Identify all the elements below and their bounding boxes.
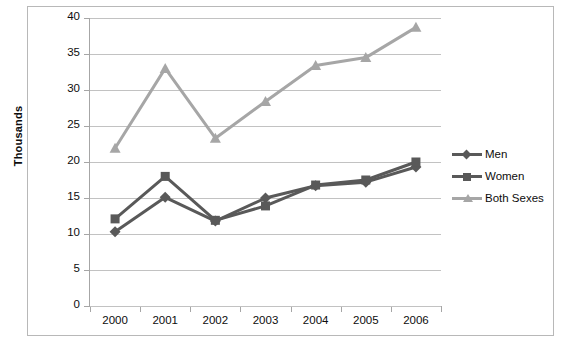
x-tick [90,307,91,312]
legend-key-square-icon [452,170,482,182]
x-tick-label: 2005 [341,314,391,326]
data-point-marker [411,158,420,167]
x-tick-label: 2004 [291,314,341,326]
y-tick [84,234,89,235]
gridline [90,306,441,307]
x-tick [391,307,392,312]
y-tick-label: 35 [48,46,80,58]
y-tick [84,198,89,199]
data-point-marker [160,63,171,73]
legend-key-triangle-icon [452,192,482,204]
x-tick-label: 2002 [190,314,240,326]
series-lines [90,18,441,306]
x-tick [140,307,141,312]
x-tick [291,307,292,312]
data-point-marker [410,22,421,32]
x-tick [190,307,191,312]
y-tick-label: 0 [48,298,80,310]
y-tick-label: 40 [48,10,80,22]
x-tick-label: 2000 [90,314,140,326]
y-tick-label: 5 [48,262,80,274]
x-tick-label: 2003 [241,314,291,326]
legend-label: Women [485,170,524,182]
legend-item-men[interactable]: Men [452,143,548,165]
y-tick [84,54,89,55]
x-tick-label: 2001 [140,314,190,326]
legend-label: Men [485,148,507,160]
x-tick [240,307,241,312]
legend-key-diamond-icon [452,148,482,160]
y-tick [84,126,89,127]
x-tick [441,307,442,312]
y-tick [84,270,89,271]
data-point-marker [361,176,370,185]
data-point-marker [161,172,170,181]
y-tick [84,90,89,91]
y-tick [84,162,89,163]
y-tick-label: 10 [48,226,80,238]
chart-legend: MenWomenBoth Sexes [452,143,548,209]
y-tick-label: 30 [48,82,80,94]
legend-item-both-sexes[interactable]: Both Sexes [452,187,548,209]
x-tick-label: 2006 [391,314,441,326]
y-tick [84,306,89,307]
y-tick-label: 20 [48,154,80,166]
y-tick-label: 25 [48,118,80,130]
data-point-marker [211,216,220,225]
series-line [115,27,416,148]
y-tick [84,18,89,19]
legend-label: Both Sexes [485,192,544,204]
data-point-marker [111,214,120,223]
chart-container: Thousands 0510152025303540 2000200120022… [0,0,581,353]
data-point-marker [311,181,320,190]
x-tick [341,307,342,312]
series-line [115,162,416,220]
y-axis-title: Thousands [12,56,24,216]
data-point-marker [261,201,270,210]
y-tick-label: 15 [48,190,80,202]
legend-item-women[interactable]: Women [452,165,548,187]
plot-area [90,18,441,306]
